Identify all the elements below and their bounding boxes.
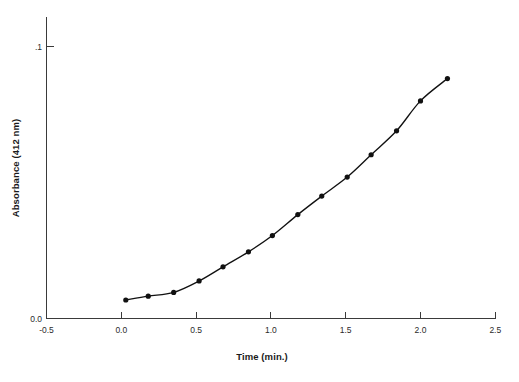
data-point — [418, 98, 423, 103]
data-point — [295, 212, 300, 217]
data-point — [319, 194, 324, 199]
data-point — [220, 264, 225, 269]
data-point — [345, 174, 350, 179]
x-tick-label-1.0: 1.0 — [265, 325, 277, 335]
x-tick-label-0.5: 0.5 — [190, 325, 202, 335]
data-point — [369, 152, 374, 157]
x-tick-label-0.0: 0.0 — [115, 325, 127, 335]
y-tick-label-0.1: .1 — [35, 42, 42, 52]
y-axis-title: Absorbance (412 nm) — [10, 119, 21, 218]
x-axis-title: Time (min.) — [236, 351, 288, 362]
data-point — [270, 233, 275, 238]
y-tick-label-0.0: 0.0 — [30, 314, 42, 324]
data-point — [146, 294, 151, 299]
x-tick-label-2.0: 2.0 — [415, 325, 427, 335]
x-tick-label-2.5: 2.5 — [489, 325, 501, 335]
chart-page: .1 0.0 -0.5 0.0 0.5 1.0 1.5 2.0 2.5 Time… — [0, 0, 519, 382]
absorbance-time-chart: .1 0.0 -0.5 0.0 0.5 1.0 1.5 2.0 2.5 Time… — [0, 0, 519, 382]
chart-background — [0, 0, 519, 382]
data-point — [123, 297, 128, 302]
data-point — [394, 128, 399, 133]
data-point — [171, 290, 176, 295]
data-point — [445, 76, 450, 81]
x-tick-label--0.5: -0.5 — [39, 325, 54, 335]
data-point — [196, 278, 201, 283]
data-point — [246, 249, 251, 254]
x-tick-label-1.5: 1.5 — [340, 325, 352, 335]
